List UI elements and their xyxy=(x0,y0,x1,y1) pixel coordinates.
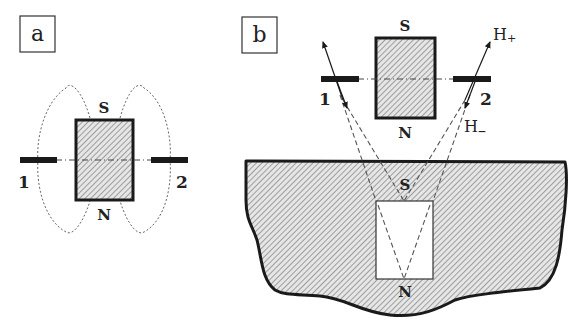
pole-s-b: S xyxy=(400,17,411,35)
h-minus-label: H– xyxy=(464,117,486,140)
sensor-1-label-b: 1 xyxy=(319,89,331,109)
arrow-h-minus-right xyxy=(465,79,476,108)
magnet-b xyxy=(376,38,435,118)
image-pole-n: N xyxy=(398,283,412,301)
sensor-2-b xyxy=(453,76,491,82)
pole-n-b: N xyxy=(398,124,412,142)
image-pole-s: S xyxy=(400,176,411,194)
h-plus-symbol: H xyxy=(493,25,507,44)
image-magnet xyxy=(376,201,433,279)
arrow-h-minus-left xyxy=(336,79,347,108)
figure-canvas: a S N 1 2 b xyxy=(0,0,575,323)
sensor-2-a xyxy=(151,157,188,163)
h-minus-sub: – xyxy=(478,121,486,140)
h-plus-sub: + xyxy=(507,32,516,45)
h-minus-symbol: H xyxy=(464,117,478,136)
pole-s-a: S xyxy=(99,99,110,117)
panel-b-label: b xyxy=(252,22,266,47)
sensor-2-label-b: 2 xyxy=(480,89,492,109)
panel-a: a S N 1 2 xyxy=(18,16,188,233)
panel-b: b S N 1 2 H+ xyxy=(242,17,566,316)
sensor-2-label-a: 2 xyxy=(176,172,188,192)
pole-n-a: N xyxy=(97,206,111,224)
sensor-1-b xyxy=(321,76,359,82)
h-plus-label: H+ xyxy=(493,25,516,45)
sensor-1-a xyxy=(20,157,57,163)
sensor-1-label-a: 1 xyxy=(18,172,30,192)
panel-a-label: a xyxy=(31,21,44,46)
